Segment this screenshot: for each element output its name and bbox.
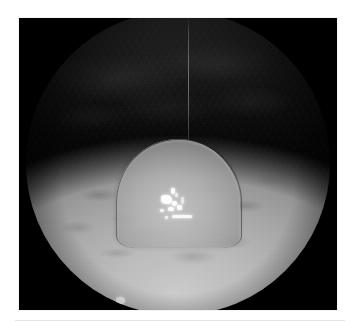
specular-spot [161,195,172,204]
specular-spot [181,197,184,204]
endoscope-field-of-view [26,18,330,310]
specular-spot [175,193,178,197]
specular-spot [172,215,192,218]
figure-page [0,0,354,330]
specular-spot [168,207,174,211]
endoscopic-image-panel [19,18,337,310]
specular-spot [160,209,164,212]
specular-spot [165,216,168,219]
instrument-artifact-line [188,18,189,145]
secondary-specular-highlight [116,297,125,304]
specular-spot [177,205,182,210]
specular-highlight-cluster [158,187,202,231]
figure-divider [15,320,345,321]
